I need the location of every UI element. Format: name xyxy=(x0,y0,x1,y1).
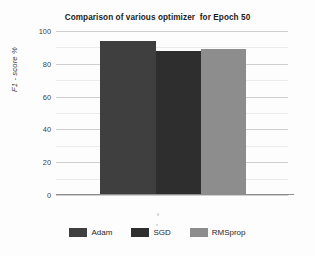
y-tick-label: 0 xyxy=(21,191,51,200)
scan-artifact xyxy=(157,213,159,216)
y-tick-label: 40 xyxy=(21,125,51,134)
bar-chart-figure: Comparison of various optimizer for Epoc… xyxy=(0,0,315,256)
legend-item-adam[interactable]: Adam xyxy=(69,228,112,237)
legend-label: SGD xyxy=(153,228,170,237)
bar-rmsprop xyxy=(201,49,246,195)
legend-swatch-icon xyxy=(131,228,149,237)
chart-title: Comparison of various optimizer for Epoc… xyxy=(0,13,315,22)
y-tick-label: 100 xyxy=(21,27,51,36)
bar-sgd xyxy=(156,51,201,195)
legend-swatch-icon xyxy=(190,228,208,237)
chart-legend: AdamSGDRMSprop xyxy=(0,228,315,237)
bar-adam xyxy=(100,41,156,195)
y-tick-label: 80 xyxy=(21,59,51,68)
y-tick-label: 20 xyxy=(21,158,51,167)
legend-label: RMSprop xyxy=(212,228,246,237)
scan-artifact xyxy=(156,224,158,226)
legend-item-rmsprop[interactable]: RMSprop xyxy=(190,228,246,237)
x-axis-line xyxy=(56,194,294,195)
legend-label: Adam xyxy=(91,228,112,237)
legend-item-sgd[interactable]: SGD xyxy=(131,228,170,237)
y-axis-tick-labels: 020406080100 xyxy=(18,31,51,195)
y-tick-label: 60 xyxy=(21,92,51,101)
bars-group xyxy=(56,31,288,195)
plot-area xyxy=(56,31,288,195)
legend-swatch-icon xyxy=(69,228,87,237)
